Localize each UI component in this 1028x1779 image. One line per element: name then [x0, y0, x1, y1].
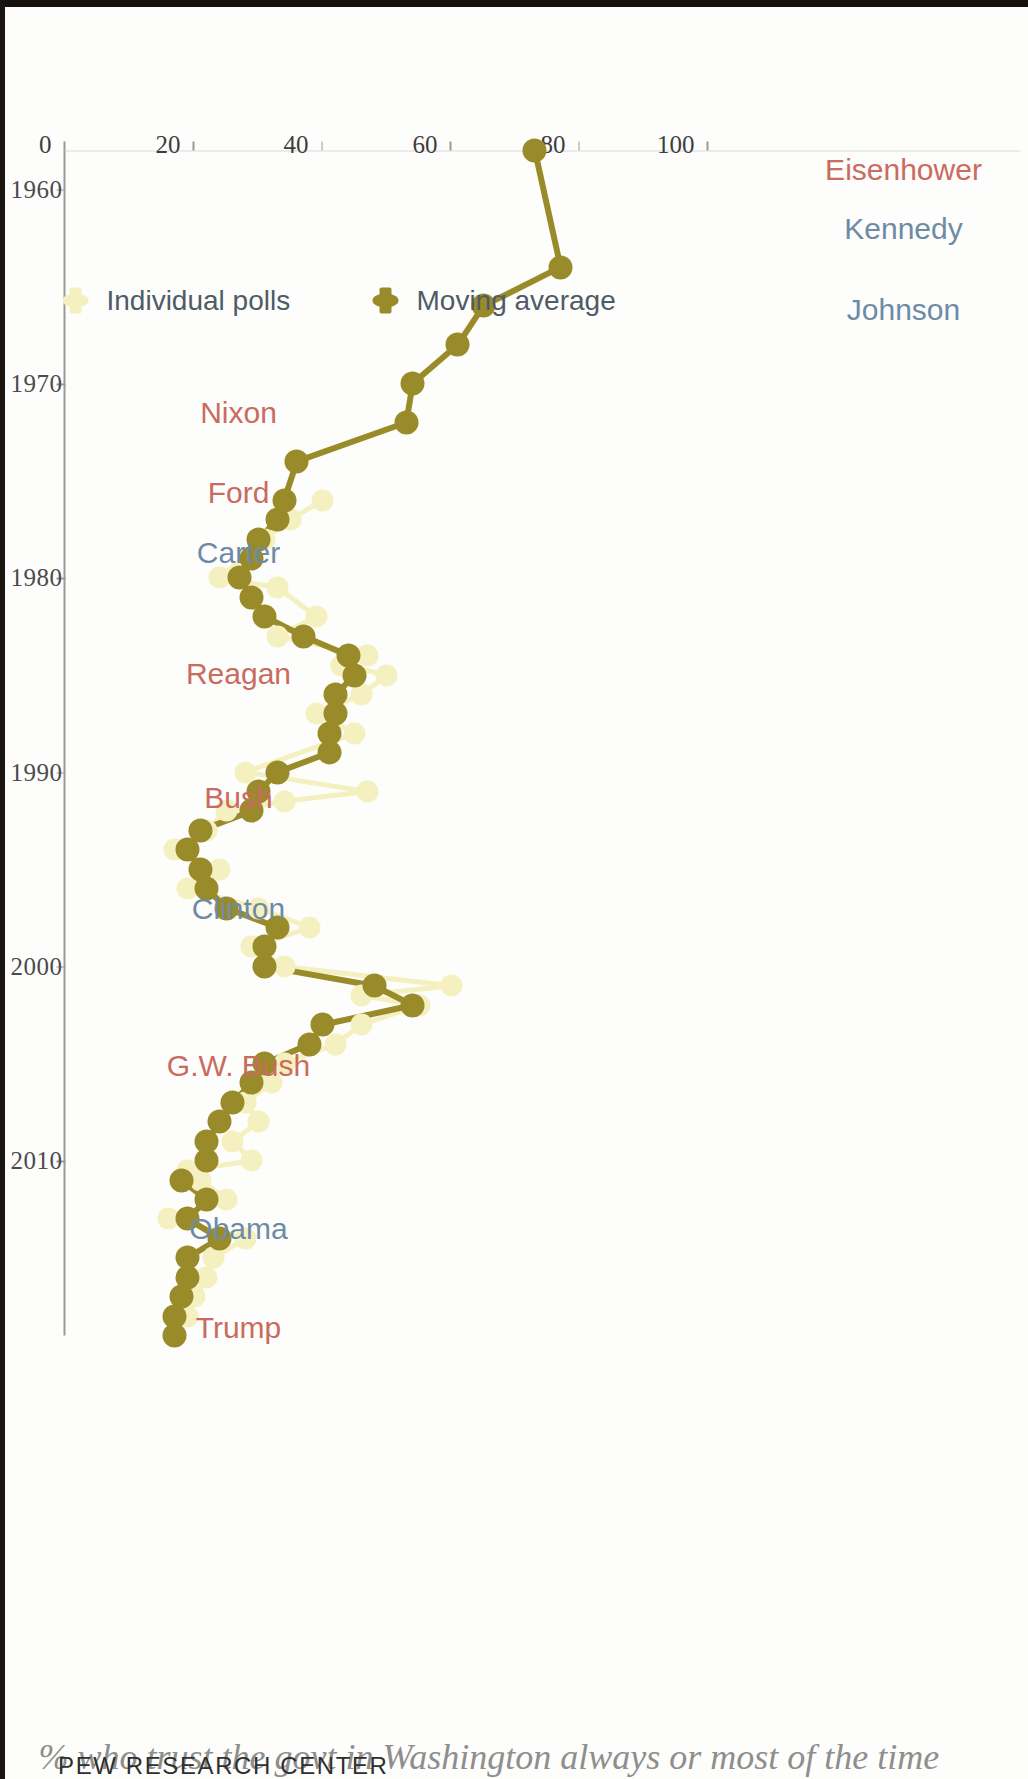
data-point [162, 1323, 186, 1347]
moving-average-line [174, 150, 560, 1335]
data-point [440, 974, 462, 996]
data-point [394, 410, 418, 434]
legend-label-individual-polls: Individual polls [106, 284, 290, 315]
moving-average-marker-icon [372, 287, 398, 313]
data-point [265, 507, 289, 531]
data-point [194, 1148, 218, 1172]
data-point [252, 954, 276, 978]
data-point [400, 371, 424, 395]
data-point [221, 1130, 243, 1152]
data-point [324, 1033, 346, 1055]
president-label-reagan: Reagan [185, 656, 290, 690]
data-point [522, 138, 546, 162]
data-point [240, 1149, 262, 1171]
data-point [362, 973, 386, 997]
president-label-clinton: Clinton [191, 891, 284, 925]
x-tick-label: 2010 [10, 1146, 62, 1174]
president-label-johnson: Johnson [846, 292, 959, 326]
data-point [343, 722, 365, 744]
president-label-kennedy: Kennedy [844, 211, 962, 245]
president-label-nixon: Nixon [200, 395, 277, 429]
president-label-bush: Bush [204, 780, 272, 814]
data-point [548, 255, 572, 279]
legend-item-moving-average: Moving average [372, 284, 615, 316]
data-point [266, 625, 288, 647]
legend-item-individual-polls: Individual polls [62, 284, 290, 316]
chart-series-layer [0, 0, 1028, 1779]
chart-plot-area: % who trust the govt in Washington alway… [0, 0, 1028, 1779]
data-point [291, 624, 315, 648]
data-point [284, 449, 308, 473]
data-point [305, 605, 327, 627]
data-point [273, 790, 295, 812]
data-point [445, 332, 469, 356]
legend-label-moving-average: Moving average [416, 284, 615, 315]
page-edge-top [0, 0, 1028, 7]
president-label-g-w-bush: G.W. Bush [166, 1048, 309, 1082]
y-tick-label: 60 [412, 130, 451, 158]
data-point [298, 916, 320, 938]
data-point [234, 761, 256, 783]
rotated-figure: % who trust the govt in Washington alway… [0, 0, 1028, 1779]
x-tick-label: 1980 [10, 563, 62, 591]
president-label-trump: Trump [195, 1310, 281, 1344]
data-point [252, 604, 276, 628]
data-point [247, 1110, 269, 1132]
data-point [311, 489, 333, 511]
data-point [169, 1168, 193, 1192]
president-label-ford: Ford [207, 475, 269, 509]
data-point [376, 664, 398, 686]
y-tick-label: 40 [283, 130, 322, 158]
individual-polls-marker-icon [62, 287, 88, 313]
y-tick-label: 20 [155, 130, 194, 158]
president-label-eisenhower: Eisenhower [825, 152, 982, 186]
x-tick-label: 1970 [10, 369, 62, 397]
x-tick-label: 1990 [10, 758, 62, 786]
y-tick-label: 100 [657, 130, 709, 158]
data-point [400, 993, 424, 1017]
x-tick-label: 1960 [10, 175, 62, 203]
data-point [317, 740, 341, 764]
data-point [350, 1013, 372, 1035]
page-edge-left [0, 0, 5, 1779]
data-point [356, 780, 378, 802]
president-label-obama: Obama [189, 1211, 287, 1245]
data-point [194, 1187, 218, 1211]
x-tick-label: 2000 [10, 952, 62, 980]
president-label-carter: Carter [196, 535, 279, 569]
data-point [266, 576, 288, 598]
y-tick-label: 0 [39, 130, 66, 158]
data-point [342, 663, 366, 687]
